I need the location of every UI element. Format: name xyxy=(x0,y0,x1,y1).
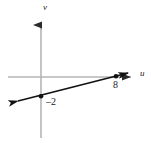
point-v-intercept xyxy=(39,94,44,99)
u-intercept-label: 8 xyxy=(113,80,118,90)
point-u-intercept xyxy=(114,74,119,79)
u-axis-label: u xyxy=(140,69,145,78)
v-axis-label: v xyxy=(43,3,47,12)
v-intercept-label: –2 xyxy=(46,97,56,107)
graph-canvas xyxy=(0,0,151,143)
coordinate-graph-figure: v u –2 8 xyxy=(0,0,151,143)
